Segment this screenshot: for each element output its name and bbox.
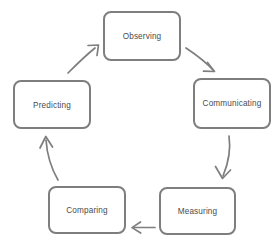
node-measuring-label: Measuring [178,207,218,216]
arrow-communicating-to-measuring [216,136,231,179]
node-measuring[interactable]: Measuring [160,188,235,234]
node-comparing[interactable]: Comparing [49,187,125,233]
node-communicating[interactable]: Communicating [194,79,270,128]
node-observing[interactable]: Observing [104,12,180,60]
node-observing-label: Observing [123,32,162,41]
arrow-predicting-to-observing [68,45,99,73]
arrow-observing-to-communicating [186,48,215,72]
diagram-canvas: Observing Communicating Measuring Compar… [0,0,280,252]
node-communicating-label: Communicating [203,99,262,108]
node-predicting[interactable]: Predicting [14,81,90,128]
node-predicting-label: Predicting [33,101,71,110]
node-comparing-label: Comparing [66,206,108,215]
arrow-measuring-to-comparing [132,222,155,233]
cycle-diagram: Observing Communicating Measuring Compar… [0,0,280,252]
arrow-comparing-to-predicting [40,137,58,181]
